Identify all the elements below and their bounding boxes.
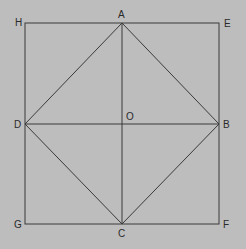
label-D: D: [14, 119, 21, 130]
geometry-diagram: H A E D O B G C F: [0, 0, 246, 249]
label-O: O: [126, 111, 134, 122]
label-B: B: [223, 119, 230, 130]
label-G: G: [14, 219, 22, 230]
label-C: C: [118, 228, 125, 239]
label-A: A: [118, 9, 125, 20]
label-E: E: [224, 18, 231, 29]
label-F: F: [223, 219, 229, 230]
label-H: H: [15, 17, 22, 28]
